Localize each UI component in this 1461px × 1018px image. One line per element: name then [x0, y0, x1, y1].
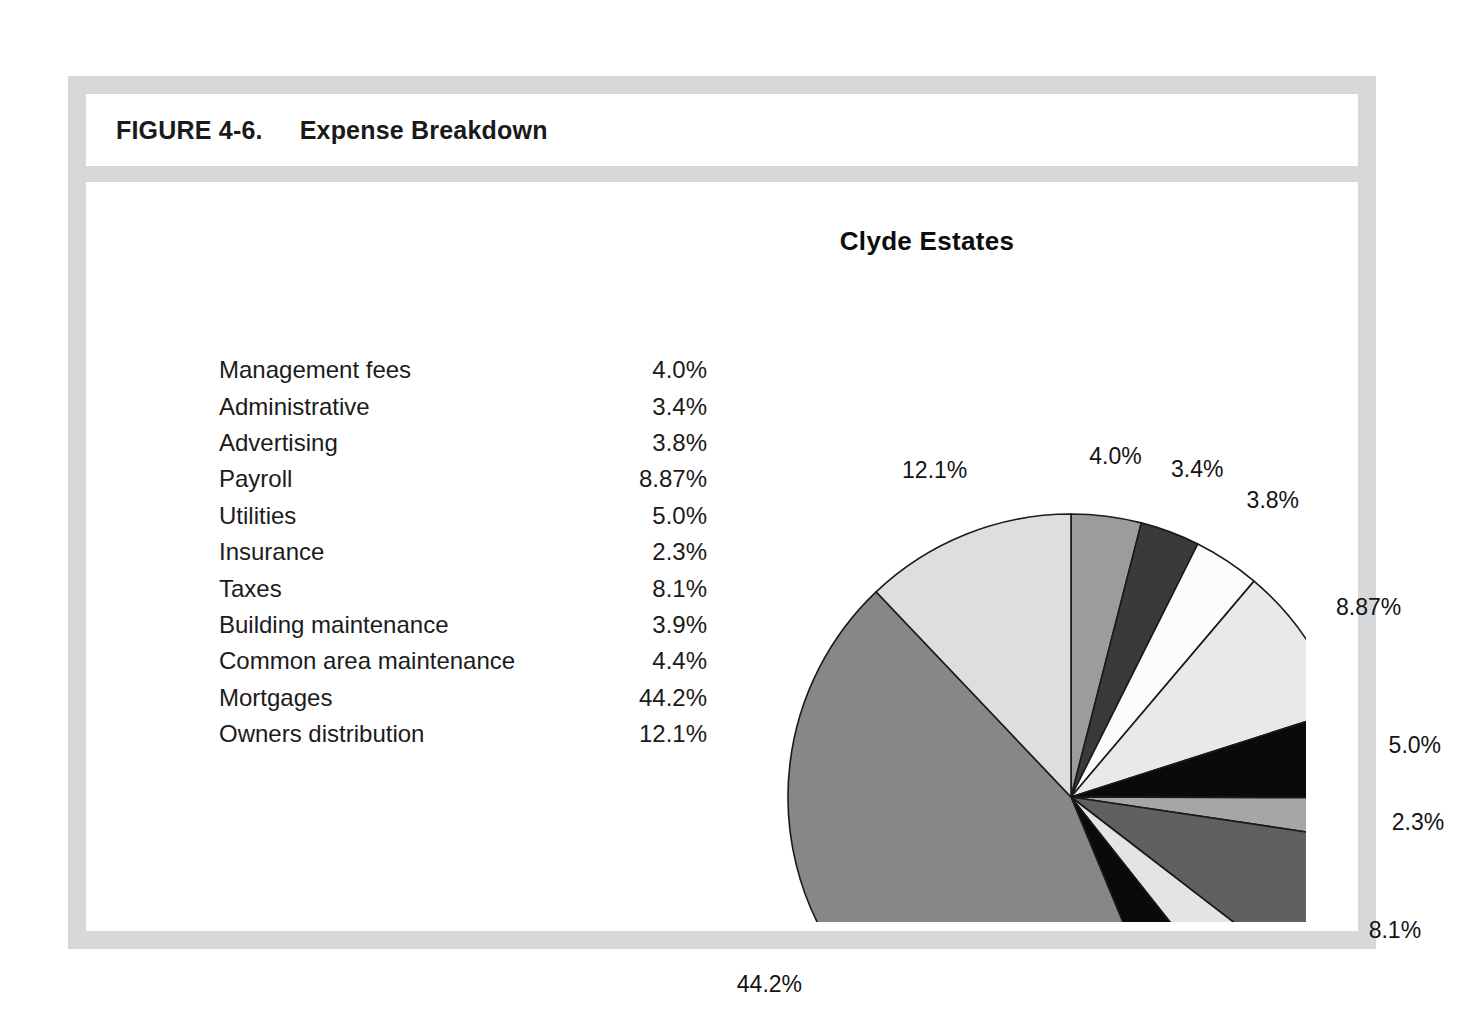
pie-slice-label: 2.3%: [1392, 809, 1444, 836]
figure-body: Management fees 4.0% Administrative 3.4%…: [86, 182, 1358, 931]
pie-slices: [788, 514, 1306, 922]
pie-slice-label: 4.0%: [1089, 443, 1141, 470]
pie-slice-label: 3.8%: [1247, 487, 1299, 514]
figure-number: FIGURE 4-6.: [116, 116, 263, 145]
pie-slice-label: 12.1%: [902, 457, 967, 484]
pie-chart-area: Clyde Estates 4.0%3.4%3.8%8.87%5.0%2.3%8…: [86, 182, 1358, 931]
pie-slice-label: 8.1%: [1369, 917, 1421, 944]
figure-caption-bar: FIGURE 4-6. Expense Breakdown: [86, 94, 1358, 166]
pie-slice-label: 8.87%: [1336, 594, 1401, 621]
caption-divider: [86, 166, 1358, 182]
pie-slice-label: 3.4%: [1171, 456, 1223, 483]
figure-title: Expense Breakdown: [300, 116, 548, 145]
pie-chart-svg: [606, 242, 1306, 922]
pie-slice-label: 44.2%: [737, 971, 802, 998]
pie-slice-label: 5.0%: [1389, 732, 1441, 759]
